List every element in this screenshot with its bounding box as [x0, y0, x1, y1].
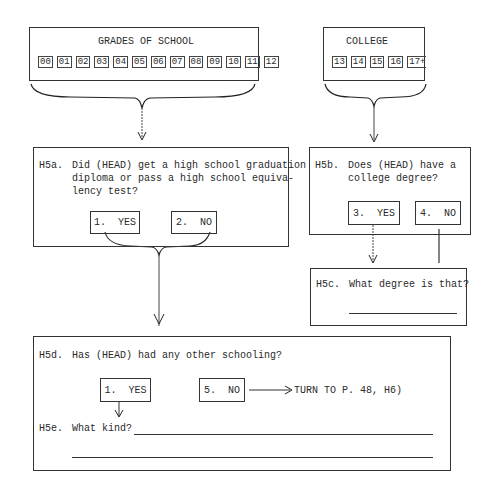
h5b-question-line-1: Does (HEAD) have a	[348, 160, 456, 172]
question-h5d-box: H5d. Has (HEAD) had any other schooling?…	[33, 336, 451, 471]
college-title: COLLEGE	[346, 36, 388, 48]
h5a-question-line-2: diploma or pass a high school equiva-	[72, 173, 294, 185]
h5d-option-yes[interactable]: 1. YES	[100, 378, 151, 402]
h5a-question-line-3: lency test?	[72, 186, 138, 198]
h5d-option-no[interactable]: 5. NO	[199, 378, 245, 402]
h5b-label: H5b.	[315, 160, 339, 172]
grade-code-03[interactable]: 03	[94, 56, 109, 68]
grades-title: GRADES OF SCHOOL	[98, 36, 194, 48]
grade-code-12[interactable]: 12	[264, 56, 279, 68]
h5a-label: H5a.	[39, 160, 63, 172]
h5d-label: H5d.	[39, 350, 63, 362]
h5e-answer-line-2[interactable]	[72, 457, 433, 458]
h5b-option-no[interactable]: 4. NO	[415, 201, 461, 225]
college-code-13[interactable]: 13	[332, 56, 347, 68]
grade-code-00[interactable]: 00	[38, 56, 53, 68]
h5c-label: H5c.	[316, 279, 340, 291]
grade-code-01[interactable]: 01	[57, 56, 72, 68]
h5d-skip-instruction: TURN TO P. 48, H6)	[294, 385, 402, 397]
grade-code-09[interactable]: 09	[207, 56, 222, 68]
h5a-option-no[interactable]: 2. NO	[171, 211, 217, 234]
college-codes: 1314151617+	[332, 56, 430, 68]
h5c-answer-line[interactable]	[349, 313, 457, 314]
grade-code-10[interactable]: 10	[226, 56, 241, 68]
grade-code-04[interactable]: 04	[113, 56, 128, 68]
college-code-15[interactable]: 15	[370, 56, 385, 68]
grade-code-07[interactable]: 07	[170, 56, 185, 68]
question-h5c-box: H5c. What degree is that?	[310, 268, 467, 326]
h5b-option-yes[interactable]: 3. YES	[348, 201, 400, 225]
college-box: COLLEGE 1314151617+	[323, 27, 425, 81]
grade-code-05[interactable]: 05	[132, 56, 147, 68]
grade-code-02[interactable]: 02	[76, 56, 91, 68]
question-h5b-box: H5b. Does (HEAD) have a college degree? …	[309, 147, 471, 235]
h5e-label: H5e.	[39, 423, 63, 435]
h5c-question: What degree is that?	[349, 279, 469, 291]
h5e-answer-line-1[interactable]	[134, 434, 433, 435]
h5d-question: Has (HEAD) had any other schooling?	[72, 350, 282, 362]
college-code-16[interactable]: 16	[388, 56, 403, 68]
h5a-question-line-1: Did (HEAD) get a high school graduation	[72, 160, 306, 172]
question-h5a-box: H5a. Did (HEAD) get a high school gradua…	[33, 147, 289, 247]
grade-code-11[interactable]: 11	[245, 56, 260, 68]
grade-code-06[interactable]: 06	[151, 56, 166, 68]
college-code-17-plus[interactable]: 17+	[407, 56, 426, 68]
grade-code-08[interactable]: 08	[189, 56, 204, 68]
grades-of-school-box: GRADES OF SCHOOL 00010203040506070809101…	[29, 27, 259, 81]
h5a-option-yes[interactable]: 1. YES	[90, 211, 140, 234]
h5e-question: What kind?	[72, 423, 132, 435]
college-code-14[interactable]: 14	[351, 56, 366, 68]
h5b-question-line-2: college degree?	[348, 173, 438, 185]
grades-codes: 00010203040506070809101112	[38, 56, 283, 68]
